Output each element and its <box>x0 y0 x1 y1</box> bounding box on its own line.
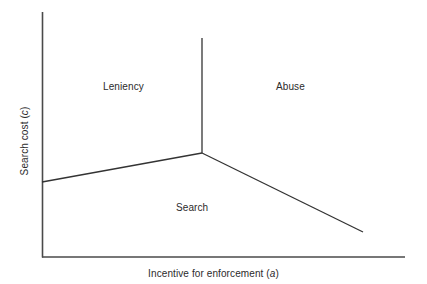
region-label-abuse: Abuse <box>276 81 305 93</box>
x-axis-title-close: ) <box>275 268 278 279</box>
x-axis-title: Incentive for enforcement (a) <box>0 268 427 280</box>
regime-diagram-figure: Leniency Abuse Search Incentive for enfo… <box>0 0 427 284</box>
diagram-canvas <box>0 0 427 284</box>
y-axis-title-text: Search cost ( <box>19 115 30 175</box>
y-axis-title-close: ) <box>19 107 30 110</box>
y-axis-title: Search cost (c) <box>19 61 31 221</box>
region-label-search: Search <box>176 202 208 214</box>
x-axis-title-text: Incentive for enforcement ( <box>148 268 270 279</box>
leniency-search-boundary-line <box>42 153 202 182</box>
abuse-search-boundary-line <box>202 153 363 232</box>
region-label-leniency: Leniency <box>103 81 144 93</box>
y-axis-title-symbol: c <box>19 110 30 115</box>
